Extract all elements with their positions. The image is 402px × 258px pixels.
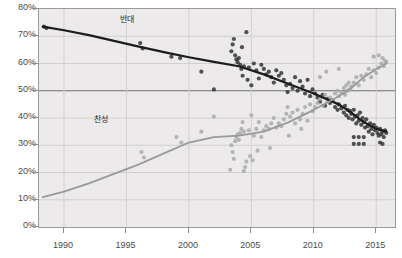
- x-tick-label: 1995: [115, 240, 135, 250]
- x-tick-label: 2000: [178, 240, 198, 250]
- x-tick-label: 2010: [303, 240, 323, 250]
- y-tick-label: 40%: [2, 112, 36, 121]
- x-tick-label: 2005: [240, 240, 260, 250]
- y-tick-label: 70%: [2, 30, 36, 39]
- x-tick-mark: [375, 228, 376, 233]
- y-tick-label: 80%: [2, 3, 36, 12]
- x-tick-mark: [63, 228, 64, 233]
- chart-root: 0%10%20%30%40%50%60%70%80% 반대 찬성 1990199…: [0, 0, 402, 258]
- x-tick-mark: [125, 228, 126, 233]
- series-label-oppose: 반대: [120, 13, 134, 24]
- x-tick-label: 2015: [365, 240, 385, 250]
- y-tick-label: 10%: [2, 194, 36, 203]
- y-tick-label: 20%: [2, 167, 36, 176]
- x-tick-mark: [313, 228, 314, 233]
- x-tick-label: 1990: [53, 240, 73, 250]
- y-axis: 0%10%20%30%40%50%60%70%80%: [0, 0, 36, 258]
- x-axis: 199019952000200520102015: [0, 232, 402, 252]
- y-tick-label: 0%: [2, 221, 36, 230]
- x-tick-mark: [188, 228, 189, 233]
- y-tick-label: 60%: [2, 58, 36, 67]
- series-label-support: 찬성: [94, 113, 108, 124]
- plot-svg: [39, 9, 395, 227]
- plot-area: 반대 찬성: [38, 8, 396, 228]
- y-tick-label: 30%: [2, 139, 36, 148]
- y-tick-label: 50%: [2, 85, 36, 94]
- x-tick-mark: [250, 228, 251, 233]
